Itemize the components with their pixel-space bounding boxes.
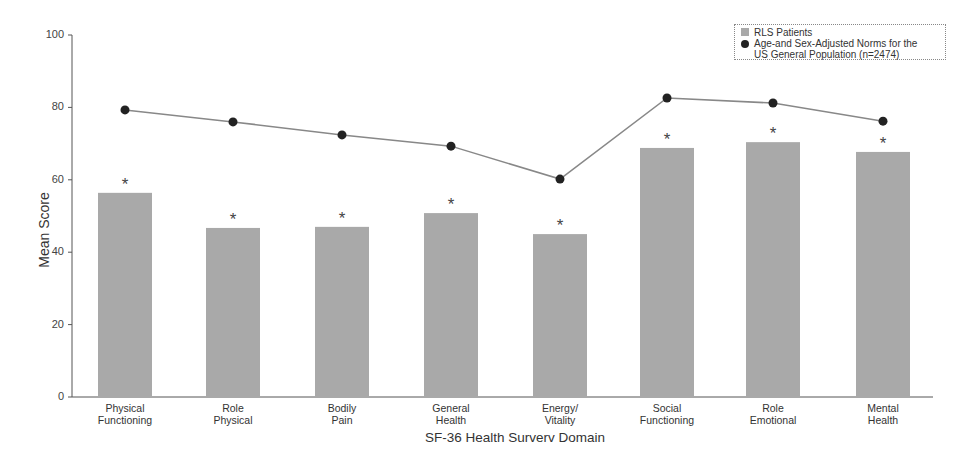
bar-6	[746, 142, 800, 397]
bar-5	[640, 148, 694, 397]
norms-dot-4	[556, 175, 565, 184]
chart-canvas: ********	[0, 0, 974, 466]
norms-dot-0	[121, 105, 130, 114]
bar-7	[856, 152, 910, 397]
x-category-label: RoleEmotional	[718, 402, 828, 426]
norms-dot-5	[663, 93, 672, 102]
legend: RLS Patients Age-and Sex-Adjusted Norms …	[734, 24, 946, 60]
y-tick-label: 80	[40, 100, 64, 112]
norms-dot-2	[338, 130, 347, 139]
bar-1	[206, 228, 260, 397]
dot-marker-icon	[741, 40, 749, 48]
bar-4	[533, 234, 587, 397]
x-category-label: MentalHealth	[828, 402, 938, 426]
x-axis-label: SF-36 Health Surverv Domain	[375, 430, 655, 445]
bar-3	[424, 213, 478, 397]
bar-2	[315, 227, 369, 397]
x-category-label: Energy/Vitality	[505, 402, 615, 426]
significance-asterisk: *	[448, 195, 455, 214]
significance-asterisk: *	[557, 216, 564, 235]
legend-bar-label: RLS Patients	[754, 27, 812, 38]
y-tick-label: 100	[40, 28, 64, 40]
x-category-label: BodilyPain	[287, 402, 397, 426]
y-tick-label: 0	[40, 390, 64, 402]
bar-0	[98, 193, 152, 397]
x-category-label: PhysicalFunctioning	[70, 402, 180, 426]
y-tick-label: 60	[40, 173, 64, 185]
significance-asterisk: *	[122, 175, 129, 194]
significance-asterisk: *	[880, 134, 887, 153]
legend-line-label: Age-and Sex-Adjusted Norms for the US Ge…	[754, 38, 917, 60]
norms-dot-1	[229, 117, 238, 126]
y-axis-label: Mean Score	[36, 180, 52, 280]
norms-dot-3	[447, 142, 456, 151]
legend-item-bars: RLS Patients	[741, 27, 939, 38]
x-category-label: GeneralHealth	[396, 402, 506, 426]
x-category-label: SocialFunctioning	[612, 402, 722, 426]
significance-asterisk: *	[770, 124, 777, 143]
significance-asterisk: *	[664, 130, 671, 149]
legend-item-line: Age-and Sex-Adjusted Norms for the US Ge…	[741, 38, 939, 60]
significance-asterisk: *	[339, 209, 346, 228]
norms-dot-6	[769, 99, 778, 108]
significance-asterisk: *	[230, 210, 237, 229]
x-category-label: RolePhysical	[178, 402, 288, 426]
bar-swatch-icon	[741, 28, 749, 36]
norms-dot-7	[879, 117, 888, 126]
y-tick-label: 20	[40, 318, 64, 330]
y-tick-label: 40	[40, 245, 64, 257]
